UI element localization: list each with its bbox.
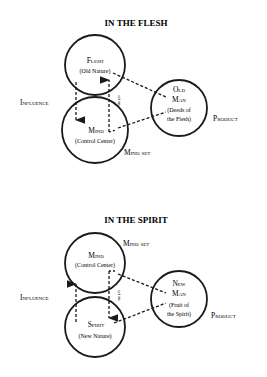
set-on-label: set on	[117, 290, 122, 301]
product-label: Product	[213, 114, 238, 123]
mind-label: Mind	[88, 251, 104, 260]
influence-label: Influence	[20, 293, 49, 302]
flesh-circle	[65, 35, 125, 95]
old-man-line1: Old	[173, 85, 185, 94]
new-man-line2: Man	[172, 289, 186, 298]
diagram-title: IN THE FLESH	[105, 18, 168, 28]
mind-set-label: Mind set	[123, 239, 149, 248]
flesh-to-old-man-line	[113, 73, 166, 97]
mind-set-label: Mind set	[124, 148, 150, 157]
mind-label: Mind	[88, 126, 104, 135]
influence-label: Influence	[20, 98, 49, 107]
diagram-in-the-flesh: IN THE FLESH Flesh (Old Nature) Mind (Co…	[20, 18, 238, 163]
mind-sublabel: (Control Center)	[75, 138, 115, 145]
new-man-line1: New	[172, 279, 185, 288]
new-man-sub1: (Fruit of	[169, 302, 189, 309]
diagram-in-the-spirit: IN THE SPIRIT Mind (Control Center) Spir…	[20, 215, 236, 357]
flesh-label: Flesh	[87, 56, 104, 65]
flesh-sublabel: (Old Nature)	[80, 68, 111, 75]
old-man-sub1: (Deeds of	[167, 107, 191, 114]
old-man-line2: Man	[172, 95, 186, 104]
mind-sublabel: (Control Center)	[75, 262, 115, 269]
new-man-sub2: the Spirit)	[167, 311, 191, 318]
mind-to-old-man-line	[118, 112, 166, 128]
spirit-label: Spirit	[88, 320, 105, 329]
old-man-sub2: the Flesh)	[167, 116, 191, 123]
diagram-title: IN THE SPIRIT	[104, 215, 167, 225]
diagram-canvas: IN THE FLESH Flesh (Old Nature) Mind (Co…	[0, 0, 267, 377]
set-on-label: set on	[117, 95, 122, 106]
connector	[109, 130, 116, 132]
product-label: Product	[211, 311, 236, 320]
mind-to-new-man-line	[118, 274, 166, 293]
spirit-sublabel: (New Nature)	[78, 333, 111, 340]
